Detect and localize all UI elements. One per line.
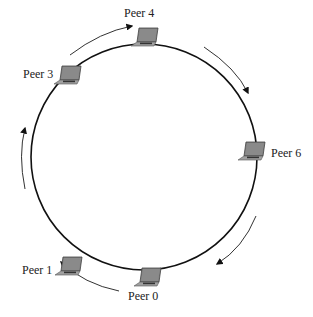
peer-1-label: Peer 1 [22,263,52,277]
arrow-3-to-4 [70,26,132,55]
laptop-icon-peer-6[interactable] [238,142,265,160]
peer-4-label: Peer 4 [124,6,154,20]
laptop-icon-peer-1[interactable] [55,257,82,275]
peer-0-label: Peer 0 [128,289,158,303]
peer-3-label: Peer 3 [23,67,53,81]
arrow-4-to-6 [204,47,248,93]
peer-6-label: Peer 6 [271,146,301,160]
laptop-icon-peer-3[interactable] [54,66,81,84]
arrow-1-to-3 [22,128,26,189]
laptop-icon-peer-0[interactable] [134,268,161,286]
laptop-icon-peer-4[interactable] [131,28,158,46]
